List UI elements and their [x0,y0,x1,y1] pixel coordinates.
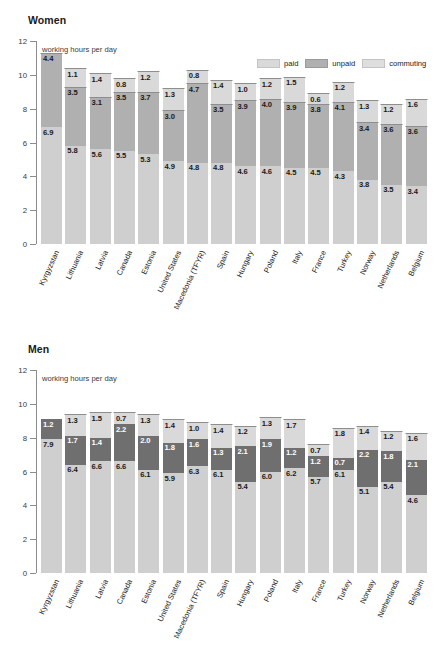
bar-france[interactable]: 5.71.20.7France [307,444,330,573]
segment-unpaid[interactable]: 3.8 [307,104,330,168]
segment-paid[interactable]: 4.6 [234,166,257,244]
bar-france[interactable]: 4.53.80.6France [307,93,330,244]
segment-unpaid[interactable]: 3.6 [405,126,428,187]
segment-unpaid[interactable]: 2.2 [113,424,136,461]
bar-turkey[interactable]: 6.10.71.8Turkey [332,428,355,573]
segment-unpaid[interactable]: 0.7 [332,458,355,470]
segment-paid[interactable]: 4.8 [186,163,209,244]
segment-unpaid[interactable]: 3.5 [210,104,233,163]
bar-lithuania[interactable]: 5.83.51.1Lithuania [64,68,87,244]
bar-italy[interactable]: 4.53.91.5Italy [283,77,306,244]
bar-latvia[interactable]: 6.61.41.5Latvia [89,412,112,573]
segment-commuting[interactable]: 1.4 [210,424,233,448]
segment-unpaid[interactable]: 4.0 [259,99,282,167]
segment-paid[interactable]: 7.9 [40,439,63,573]
segment-paid[interactable]: 3.4 [405,186,428,244]
segment-unpaid[interactable]: 2.0 [137,436,160,470]
segment-paid[interactable]: 5.9 [162,473,185,573]
bar-macedonia-tfyr[interactable]: 6.31.61.0Macedonia (TFYR) [186,422,209,573]
segment-commuting[interactable]: 1.3 [64,414,87,436]
segment-commuting[interactable]: 1.6 [405,99,428,126]
bar-netherlands[interactable]: 5.41.81.2Netherlands [380,431,403,573]
segment-paid[interactable]: 3.5 [380,185,403,244]
segment-commuting[interactable]: 1.2 [137,71,160,91]
segment-paid[interactable]: 6.1 [210,470,233,573]
segment-commuting[interactable]: 1.2 [380,431,403,451]
segment-unpaid[interactable]: 1.3 [210,448,233,470]
bar-italy[interactable]: 6.21.21.7Italy [283,419,306,573]
segment-paid[interactable]: 6.2 [283,468,306,573]
bar-belgium[interactable]: 4.62.11.6Belgium [405,433,428,573]
bar-hungary[interactable]: 5.42.11.2Hungary [234,426,257,573]
bar-united-states[interactable]: 4.93.01.3United States [162,88,185,244]
segment-commuting[interactable]: 1.3 [356,100,379,122]
segment-paid[interactable]: 6.4 [64,465,87,573]
segment-commuting[interactable]: 1.3 [259,417,282,439]
bar-latvia[interactable]: 5.63.11.4Latvia [89,73,112,244]
segment-paid[interactable]: 6.1 [137,470,160,573]
segment-paid[interactable]: 4.6 [405,495,428,573]
bar-spain[interactable]: 6.11.31.4Spain [210,424,233,573]
segment-paid[interactable]: 5.8 [64,146,87,244]
segment-unpaid[interactable]: 1.4 [89,438,112,462]
segment-unpaid[interactable]: 3.7 [137,92,160,155]
segment-commuting[interactable]: 1.3 [162,88,185,110]
segment-commuting[interactable]: 1.7 [283,419,306,448]
segment-commuting[interactable]: 1.4 [210,80,233,104]
segment-commuting[interactable]: 1.5 [283,77,306,102]
segment-unpaid[interactable]: 1.2 [283,448,306,468]
segment-commuting[interactable]: 1.2 [380,104,403,124]
bar-poland[interactable]: 6.01.91.3Poland [259,417,282,573]
segment-paid[interactable]: 6.3 [186,466,209,573]
bar-kyrgyzstan[interactable]: 7.91.2Kyrgyzstan [40,419,63,573]
segment-commuting[interactable]: 1.3 [137,414,160,436]
segment-commuting[interactable]: 0.7 [307,444,330,456]
segment-unpaid[interactable]: 1.2 [307,456,330,476]
legend-item-paid[interactable]: paid [257,59,298,68]
bar-norway[interactable]: 3.83.41.3Norway [356,100,379,244]
bar-united-states[interactable]: 5.91.81.4United States [162,419,185,573]
segment-unpaid[interactable]: 1.7 [64,436,87,465]
segment-commuting[interactable]: 1.5 [89,412,112,437]
bar-netherlands[interactable]: 3.53.61.2Netherlands [380,104,403,244]
segment-unpaid[interactable]: 3.0 [162,110,185,161]
segment-unpaid[interactable]: 1.8 [380,451,403,481]
segment-commuting[interactable]: 1.2 [234,426,257,446]
segment-unpaid[interactable]: 3.9 [283,102,306,168]
segment-commuting[interactable]: 0.7 [113,412,136,424]
segment-commuting[interactable]: 0.8 [113,78,136,92]
segment-unpaid[interactable]: 3.4 [356,122,379,180]
bar-canada[interactable]: 5.53.50.8Canada [113,78,136,244]
legend-item-unpaid[interactable]: unpaid [305,59,355,68]
segment-unpaid[interactable]: 3.1 [89,97,112,149]
segment-unpaid[interactable]: 1.8 [162,443,185,473]
segment-commuting[interactable]: 1.1 [64,68,87,87]
segment-unpaid[interactable]: 3.6 [380,124,403,185]
segment-commuting[interactable]: 0.8 [186,70,209,84]
segment-paid[interactable]: 6.6 [113,461,136,573]
segment-paid[interactable]: 6.6 [89,461,112,573]
segment-unpaid[interactable]: 4.1 [332,102,355,171]
bar-norway[interactable]: 5.12.21.4Norway [356,426,379,573]
segment-paid[interactable]: 5.5 [113,151,136,244]
bar-estonia[interactable]: 5.33.71.2Estonia [137,71,160,244]
segment-paid[interactable]: 5.7 [307,477,330,573]
legend-item-commuting[interactable]: commuting [362,59,426,68]
segment-commuting[interactable]: 1.8 [332,428,355,458]
segment-paid[interactable]: 4.8 [210,163,233,244]
segment-paid[interactable]: 4.6 [259,166,282,244]
segment-commuting[interactable]: 0.6 [307,93,330,103]
bar-poland[interactable]: 4.64.01.2Poland [259,78,282,244]
segment-paid[interactable]: 5.1 [356,487,379,573]
segment-paid[interactable]: 5.4 [234,482,257,573]
segment-paid[interactable]: 3.8 [356,180,379,244]
segment-paid[interactable]: 6.1 [332,470,355,573]
bar-hungary[interactable]: 4.63.91.0Hungary [234,83,257,244]
segment-paid[interactable]: 5.3 [137,154,160,244]
segment-commuting[interactable]: 1.6 [405,433,428,460]
segment-unpaid[interactable]: 1.2 [40,419,63,439]
segment-unpaid[interactable]: 1.6 [186,439,209,466]
segment-commuting[interactable]: 1.4 [356,426,379,450]
bar-turkey[interactable]: 4.34.11.2Turkey [332,82,355,244]
segment-unpaid[interactable]: 4.4 [40,53,63,127]
